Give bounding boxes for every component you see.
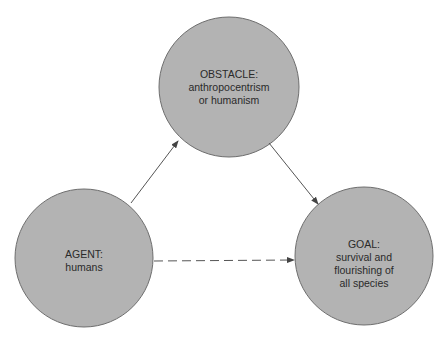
agent-line-1: humans (65, 261, 103, 274)
obstacle-title: OBSTACLE: (188, 68, 269, 81)
obstacle-line-2: or humanism (188, 94, 269, 107)
agent-title: AGENT: (65, 248, 103, 261)
goal-label: GOAL: survival and flourishing of all sp… (334, 238, 394, 290)
goal-line-2: flourishing of (334, 264, 394, 277)
dashed-arrow-agent-to-goal (154, 260, 294, 261)
obstacle-line-1: anthropocentrism (188, 81, 269, 94)
goal-line-1: survival and (334, 251, 394, 264)
arrow-agent-to-obstacle (131, 141, 178, 203)
goal-title: GOAL: (334, 238, 394, 251)
goal-line-3: all species (334, 277, 394, 290)
arrow-obstacle-to-goal (269, 143, 318, 204)
obstacle-label: OBSTACLE: anthropocentrism or humanism (188, 68, 269, 107)
agent-label: AGENT: humans (65, 248, 103, 274)
